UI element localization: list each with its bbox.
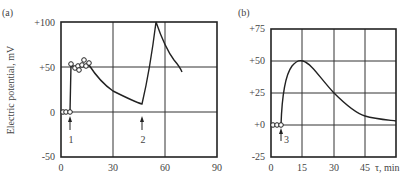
svg-text:15: 15 [297,162,307,173]
panel-a-label: (a) [2,7,13,19]
figure: (a) Electric potential, mV +100 +50 0 -5… [0,0,414,180]
svg-text:+100: +100 [34,17,55,28]
arrow-1: 1 [68,116,74,145]
y-ticks-a: +100 +50 0 -50 [34,17,55,162]
x-ticks-a: 0 30 60 90 [59,162,223,173]
svg-text:90: 90 [212,162,222,173]
svg-text:3: 3 [284,134,289,145]
gridlines-a [61,22,217,157]
svg-text:+50: +50 [249,55,265,66]
svg-text:0: 0 [50,107,55,118]
panel-b-label: (b) [238,7,250,19]
panel-a: (a) Electric potential, mV +100 +50 0 -5… [2,7,222,173]
svg-text:+0: +0 [254,119,265,130]
markers-b [271,123,284,128]
arrow-3: 3 [279,128,289,145]
svg-text:-25: -25 [252,151,265,162]
svg-text:30: 30 [108,162,118,173]
svg-text:+75: +75 [249,23,265,34]
panel-b: (b) +75 +50 +25 +0 -25 0 15 30 45 τ, min [238,7,400,173]
arrow-2: 2 [140,116,146,145]
svg-text:+25: +25 [249,87,265,98]
svg-text:1: 1 [69,134,74,145]
x-axis-title: τ, min [375,162,400,173]
svg-text:0: 0 [59,162,64,173]
svg-text:45: 45 [360,162,370,173]
svg-text:-50: -50 [42,151,55,162]
svg-text:2: 2 [141,134,146,145]
y-ticks-b: +75 +50 +25 +0 -25 [249,23,265,162]
y-axis-title: Electric potential, mV [5,45,16,134]
svg-text:0: 0 [269,162,274,173]
plot-frame-a [61,22,217,157]
svg-text:60: 60 [160,162,170,173]
svg-text:30: 30 [329,162,339,173]
svg-text:+50: +50 [39,62,55,73]
x-ticks-b: 0 15 30 45 τ, min [269,162,400,173]
markers-a [61,58,92,115]
